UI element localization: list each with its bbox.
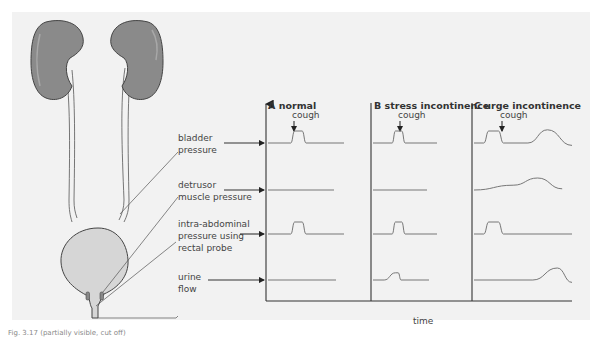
label-urine-flow: urine [178, 272, 202, 282]
label-detrusor-pressure-2: muscle pressure [178, 192, 252, 202]
trace-c-bladder-pressure [474, 130, 572, 146]
axes [266, 103, 572, 301]
trace-b-bladder-pressure [373, 131, 437, 143]
label-bladder-pressure-2: pressure [178, 145, 217, 155]
trace-a-bladder-pressure [268, 131, 344, 143]
column-title-b: B stress incontinence [374, 100, 489, 111]
urodynamics-diagram: bladder pressure detrusor muscle pressur… [0, 0, 599, 341]
row-labels: bladder pressure detrusor muscle pressur… [178, 133, 252, 294]
trace-a-intra-abdominal-pressure [268, 222, 344, 234]
figure-caption: Fig. 3.17 (partially visible, cut off) [8, 329, 126, 337]
trace-c-urine-flow [474, 268, 572, 282]
trace-c-detrusor-pressure [474, 178, 562, 190]
cough-label-c: cough [500, 110, 528, 120]
anatomy-illustration [31, 21, 163, 318]
label-urine-flow-2: flow [178, 284, 197, 294]
traces [268, 130, 572, 283]
right-kidney [111, 21, 163, 100]
label-bladder-pressure: bladder [178, 133, 213, 143]
label-intra-abdominal-2: pressure using [178, 231, 244, 241]
trace-b-intra-abdominal-pressure [373, 222, 437, 234]
label-detrusor-pressure: detrusor [178, 180, 216, 190]
cough-label-b: cough [398, 110, 426, 120]
row-arrows [208, 143, 264, 280]
cough-label-a: cough [292, 110, 320, 120]
left-kidney [31, 21, 83, 100]
trace-b-urine-flow [373, 273, 429, 280]
left-ureter-inner [72, 70, 77, 218]
sphincter-left [86, 292, 90, 300]
sphincter-right [100, 292, 104, 300]
x-axis-label: time [413, 316, 434, 326]
trace-c-intra-abdominal-pressure [474, 222, 572, 234]
label-intra-abdominal-3: rectal probe [178, 243, 233, 253]
label-intra-abdominal: intra-abdominal [178, 219, 250, 229]
